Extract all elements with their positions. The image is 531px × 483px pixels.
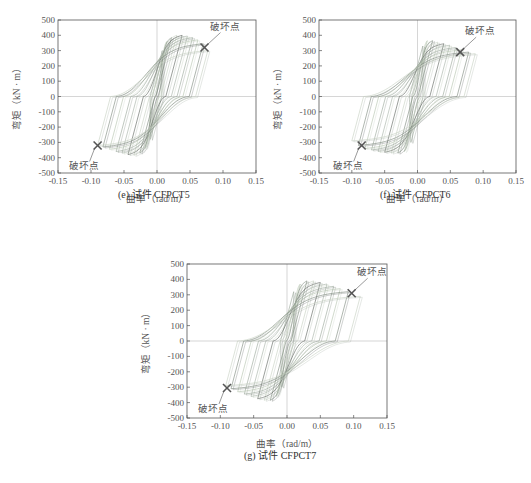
hysteresis-loop bbox=[140, 38, 172, 154]
y-tick-label: 200 bbox=[42, 61, 56, 71]
x-tick-label: 0.15 bbox=[508, 176, 524, 186]
failure-point-marker: 破坏点 bbox=[201, 21, 240, 52]
y-tick-label: -200 bbox=[39, 122, 56, 132]
failure-point-marker: 破坏点 bbox=[69, 141, 102, 171]
y-axis-label: 弯矩（kN · m） bbox=[272, 63, 283, 130]
x-tick-label: -0.15 bbox=[310, 176, 329, 186]
y-axis-label: 弯矩（kN · m） bbox=[11, 63, 22, 130]
hysteresis-loop bbox=[238, 289, 341, 392]
y-tick-label: 500 bbox=[42, 15, 56, 25]
failure-point-label: 破坏点 bbox=[333, 160, 363, 171]
y-tick-label: -400 bbox=[39, 153, 56, 163]
x-tick-label: 0.15 bbox=[248, 176, 264, 186]
x-tick-label: 0.00 bbox=[149, 176, 165, 186]
failure-point-marker: 破坏点 bbox=[198, 384, 231, 414]
x-tick-label: 0.10 bbox=[346, 421, 362, 431]
chart-panel-f: -500-400-300-200-1000100200300400500-0.1… bbox=[269, 12, 530, 213]
y-tick-label: 100 bbox=[171, 321, 185, 331]
hysteresis-loop bbox=[270, 281, 307, 400]
y-tick-label: -400 bbox=[168, 398, 185, 408]
y-tick-label: -100 bbox=[300, 107, 317, 117]
chart-panel-e: -500-400-300-200-1000100200300400500-0.1… bbox=[8, 12, 270, 213]
x-tick-label: -0.05 bbox=[115, 176, 134, 186]
failure-point-label: 破坏点 bbox=[357, 266, 387, 277]
caption-g: (g) 试件 CFPCT7 bbox=[244, 447, 316, 462]
y-tick-label: -300 bbox=[168, 382, 185, 392]
y-tick-label: 300 bbox=[171, 290, 185, 300]
y-tick-label: -300 bbox=[39, 137, 56, 147]
y-tick-label: 500 bbox=[171, 259, 185, 269]
failure-point-marker: 破坏点 bbox=[348, 266, 387, 297]
x-tick-label: -0.15 bbox=[178, 421, 197, 431]
x-tick-label: -0.15 bbox=[49, 176, 68, 186]
y-tick-label: -300 bbox=[300, 137, 317, 147]
chart-panel-g: -500-400-300-200-1000100200300400500-0.1… bbox=[137, 256, 401, 458]
y-tick-label: -400 bbox=[300, 153, 317, 163]
y-tick-label: 300 bbox=[42, 46, 56, 56]
chart-svg: -500-400-300-200-1000100200300400500-0.1… bbox=[269, 12, 530, 213]
x-tick-label: 0.05 bbox=[182, 176, 198, 186]
failure-point-label: 破坏点 bbox=[210, 21, 240, 32]
caption-e: (e) 试件 CFPCT5 bbox=[118, 186, 190, 201]
y-tick-label: 400 bbox=[303, 30, 317, 40]
x-tick-label: -0.05 bbox=[244, 421, 263, 431]
y-tick-label: -100 bbox=[39, 107, 56, 117]
hysteresis-curves bbox=[352, 41, 478, 154]
y-tick-label: 0 bbox=[51, 92, 56, 102]
y-tick-label: 400 bbox=[42, 30, 56, 40]
y-tick-label: -100 bbox=[168, 351, 185, 361]
x-tick-label: 0.15 bbox=[379, 421, 395, 431]
x-tick-label: -0.10 bbox=[342, 176, 361, 186]
y-axis-label: 弯矩（kN · m） bbox=[140, 308, 151, 375]
hysteresis-loop bbox=[372, 48, 456, 151]
y-tick-label: 200 bbox=[171, 305, 185, 315]
hysteresis-loop bbox=[244, 286, 333, 394]
y-tick-label: 300 bbox=[303, 46, 317, 56]
x-tick-label: 0.10 bbox=[475, 176, 491, 186]
caption-f: (f) 试件 CFPCT6 bbox=[380, 186, 451, 201]
chart-svg: -500-400-300-200-1000100200300400500-0.1… bbox=[8, 12, 270, 213]
y-tick-label: 500 bbox=[303, 15, 317, 25]
y-tick-label: 100 bbox=[42, 76, 56, 86]
x-tick-label: 0.00 bbox=[279, 421, 295, 431]
y-tick-label: 100 bbox=[303, 76, 317, 86]
x-tick-label: -0.10 bbox=[82, 176, 101, 186]
chart-svg: -500-400-300-200-1000100200300400500-0.1… bbox=[137, 256, 401, 458]
hysteresis-curves bbox=[98, 35, 210, 156]
x-tick-label: 0.05 bbox=[442, 176, 458, 186]
x-tick-label: 0.05 bbox=[312, 421, 328, 431]
y-tick-label: 0 bbox=[180, 336, 185, 346]
hysteresis-loop bbox=[110, 40, 198, 149]
x-tick-label: 0.10 bbox=[215, 176, 231, 186]
x-tick-label: -0.05 bbox=[375, 176, 394, 186]
failure-point-label: 破坏点 bbox=[465, 25, 495, 36]
x-tick-label: -0.10 bbox=[211, 421, 230, 431]
x-tick-label: 0.00 bbox=[410, 176, 426, 186]
failure-point-label: 破坏点 bbox=[198, 403, 228, 414]
y-tick-label: 0 bbox=[312, 92, 317, 102]
y-tick-label: -200 bbox=[300, 122, 317, 132]
y-tick-label: -200 bbox=[168, 367, 185, 377]
y-tick-label: 400 bbox=[171, 274, 185, 284]
failure-point-marker: 破坏点 bbox=[333, 141, 366, 171]
failure-point-label: 破坏点 bbox=[69, 160, 99, 171]
y-tick-label: 200 bbox=[303, 61, 317, 71]
failure-point-marker: 破坏点 bbox=[456, 25, 495, 56]
